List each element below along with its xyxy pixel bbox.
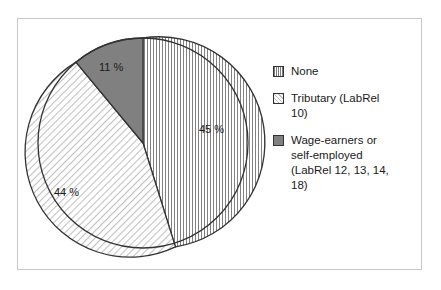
slice-label-tributary: 44 % bbox=[54, 186, 79, 198]
vertical-lines-swatch-icon bbox=[273, 66, 284, 77]
legend-item-none[interactable]: None bbox=[273, 64, 413, 79]
chart-canvas: 45 % 44 % 11 % None Tributary (LabRel 10… bbox=[0, 0, 441, 290]
legend-item-label: Tributary (LabRel 10) bbox=[291, 91, 379, 121]
slice-label-none: 45 % bbox=[199, 123, 224, 135]
slice-label-wage-earners: 11 % bbox=[99, 61, 123, 73]
legend-item-label: Wage-earners or self-employed (LabRel 12… bbox=[291, 133, 389, 193]
legend-item-label: None bbox=[291, 64, 319, 79]
legend-item-tributary[interactable]: Tributary (LabRel 10) bbox=[273, 91, 413, 121]
gray-solid-swatch-icon bbox=[273, 135, 284, 146]
legend-item-wage-earners[interactable]: Wage-earners or self-employed (LabRel 12… bbox=[273, 133, 413, 193]
legend: None Tributary (LabRel 10) Wage-earners … bbox=[273, 64, 413, 205]
empty-white-swatch-icon bbox=[273, 93, 284, 104]
